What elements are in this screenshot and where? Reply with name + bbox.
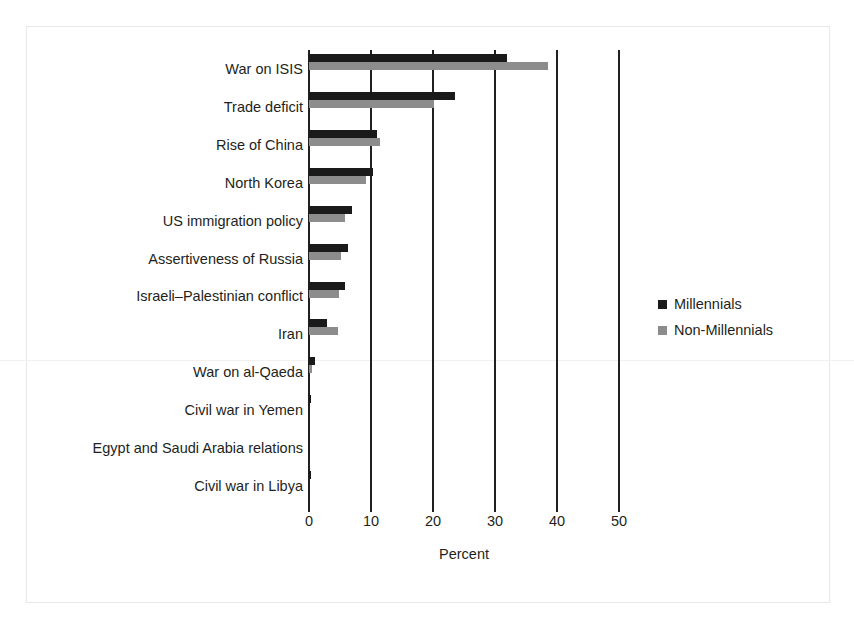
bar-group: [309, 88, 619, 126]
category-axis-labels: War on ISISTrade deficitRise of ChinaNor…: [0, 50, 303, 505]
category-label: War on al-Qaeda: [3, 365, 303, 380]
bar-non-millennials: [309, 176, 366, 184]
bar-millennials: [309, 130, 377, 138]
x-tick-mark-50: [618, 505, 620, 512]
bar-non-millennials: [309, 100, 434, 108]
bar-group: [309, 391, 619, 429]
bar-millennials: [309, 395, 311, 403]
x-axis-title: Percent: [309, 546, 619, 562]
legend-swatch-icon: [658, 326, 667, 335]
x-tick-label-40: 40: [537, 512, 577, 530]
category-label: Civil war in Libya: [3, 479, 303, 494]
bar-group: [309, 429, 619, 467]
bar-group: [309, 315, 619, 353]
category-label: North Korea: [3, 176, 303, 191]
category-label: US immigration policy: [3, 214, 303, 229]
bar-millennials: [309, 92, 455, 100]
x-tick-mark-30: [494, 505, 496, 512]
bar-group: [309, 126, 619, 164]
x-tick-label-50: 50: [599, 512, 639, 530]
bar-chart-figure: War on ISISTrade deficitRise of ChinaNor…: [0, 0, 854, 627]
x-tick-label-10: 10: [351, 512, 391, 530]
category-label: Civil war in Yemen: [3, 403, 303, 418]
bar-group: [309, 353, 619, 391]
bar-group: [309, 467, 619, 505]
bar-millennials: [309, 357, 315, 365]
bar-non-millennials: [309, 365, 312, 373]
x-tick-mark-20: [432, 505, 434, 512]
bar-millennials: [309, 319, 327, 327]
bar-group: [309, 202, 619, 240]
category-label: War on ISIS: [3, 62, 303, 77]
legend-swatch-icon: [658, 300, 667, 309]
category-label: Assertiveness of Russia: [3, 252, 303, 267]
category-label: Trade deficit: [3, 100, 303, 115]
x-tick-mark-0: [308, 505, 310, 512]
x-tick-mark-10: [370, 505, 372, 512]
bar-non-millennials: [309, 327, 338, 335]
x-tick-mark-40: [556, 505, 558, 512]
bar-non-millennials: [309, 214, 345, 222]
bar-non-millennials: [309, 290, 339, 298]
x-tick-label-20: 20: [413, 512, 453, 530]
legend-label: Non-Millennials: [674, 323, 773, 338]
bar-millennials: [309, 282, 345, 290]
legend: MillennialsNon-Millennials: [658, 291, 818, 343]
category-label: Israeli–Palestinian conflict: [3, 289, 303, 304]
category-label: Iran: [3, 327, 303, 342]
bar-millennials: [309, 168, 373, 176]
bar-millennials: [309, 54, 507, 62]
x-tick-label-30: 30: [475, 512, 515, 530]
bar-non-millennials: [309, 138, 380, 146]
bar-group: [309, 50, 619, 88]
bar-group: [309, 164, 619, 202]
legend-label: Millennials: [674, 297, 742, 312]
bar-group: [309, 278, 619, 316]
x-tick-label-0: 0: [289, 512, 329, 530]
bar-group: [309, 240, 619, 278]
category-label: Rise of China: [3, 138, 303, 153]
bar-non-millennials: [309, 252, 341, 260]
legend-item: Millennials: [658, 291, 818, 317]
bar-non-millennials: [309, 62, 548, 70]
category-label: Egypt and Saudi Arabia relations: [3, 441, 303, 456]
legend-item: Non-Millennials: [658, 317, 818, 343]
plot-area: 01020304050: [309, 50, 619, 505]
bar-millennials: [309, 471, 311, 479]
bar-millennials: [309, 206, 352, 214]
bar-millennials: [309, 244, 348, 252]
